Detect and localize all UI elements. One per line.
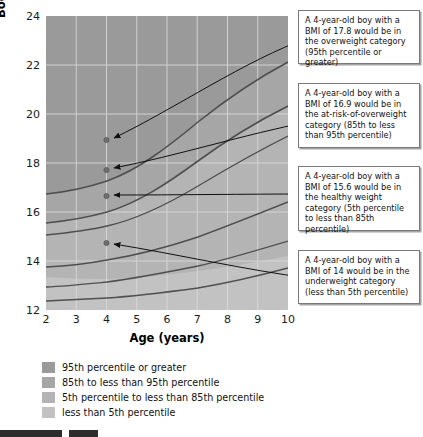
callout-at-risk-of-overweight: A 4-year-old boy with a BMI of 16.9 woul… xyxy=(298,83,420,148)
legend-swatch-less-than-5th xyxy=(42,407,55,418)
y-tick-24: 24 xyxy=(10,10,40,23)
marker-at-risk-16-9 xyxy=(104,167,109,172)
x-tick-2: 2 xyxy=(34,313,58,326)
legend-item-5th-to-85th: 5th percentile to less than 85th percent… xyxy=(42,390,342,405)
bmi-chart-figure: 24 22 20 18 16 14 12 Body mass index ( k… xyxy=(0,0,423,437)
page-footer-rule-gap xyxy=(62,430,69,437)
x-tick-7: 7 xyxy=(185,313,209,326)
x-axis-ticks: 2 3 4 5 6 7 8 9 10 xyxy=(46,313,288,331)
plot-svg xyxy=(46,16,288,310)
callout-healthy-weight: A 4-year-old boy with a BMI of 15.6 woul… xyxy=(298,166,420,231)
legend-label-85th: 85th to less than 95th percentile xyxy=(62,377,219,388)
y-tick-14: 14 xyxy=(10,255,40,268)
legend-item-less-than-5th: less than 5th percentile xyxy=(42,405,342,420)
y-tick-22: 22 xyxy=(10,59,40,72)
x-tick-3: 3 xyxy=(64,313,88,326)
callout-overweight: A 4-year-old boy with a BMI of 17.8 woul… xyxy=(298,10,420,64)
legend-label-95th: 95th percentile or greater xyxy=(62,362,186,373)
y-tick-20: 20 xyxy=(10,108,40,121)
legend-item-85th: 85th to less than 95th percentile xyxy=(42,375,342,390)
x-tick-6: 6 xyxy=(155,313,179,326)
x-tick-5: 5 xyxy=(125,313,149,326)
legend-label-5th-to-85th: 5th percentile to less than 85th percent… xyxy=(62,392,264,403)
x-tick-8: 8 xyxy=(216,313,240,326)
callout-underweight: A 4-year-old boy with a BMI of 14 would … xyxy=(298,250,420,304)
x-tick-4: 4 xyxy=(95,313,119,326)
legend-item-95th: 95th percentile or greater xyxy=(42,360,342,375)
legend-swatch-95th xyxy=(42,362,55,373)
x-tick-10: 10 xyxy=(276,313,300,326)
x-tick-9: 9 xyxy=(246,313,270,326)
y-axis-ticks: 24 22 20 18 16 14 12 xyxy=(0,0,46,437)
marker-healthy-15-6 xyxy=(104,193,109,198)
plot-area xyxy=(46,16,288,310)
legend-swatch-85th xyxy=(42,377,55,388)
legend-swatch-5th-to-85th xyxy=(42,392,55,403)
x-axis-title: Age (years) xyxy=(46,331,288,345)
legend-label-less-than-5th: less than 5th percentile xyxy=(62,407,175,418)
y-tick-18: 18 xyxy=(10,157,40,170)
marker-underweight-14 xyxy=(104,240,109,245)
legend: 95th percentile or greater 85th to less … xyxy=(42,360,342,420)
y-axis-title: Body mass index ( kg/m²) xyxy=(0,0,8,18)
y-tick-16: 16 xyxy=(10,206,40,219)
page-footer-rule xyxy=(0,430,98,437)
marker-overweight-17-8 xyxy=(104,137,109,142)
